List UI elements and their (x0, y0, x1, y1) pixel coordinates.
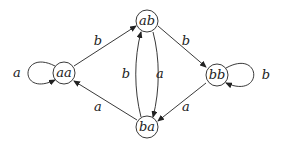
node-bb: bb (206, 64, 228, 86)
edge-label-aa-loop: a (13, 65, 21, 80)
edge-label-ba-aa: a (94, 99, 102, 114)
edge-label-ab-ba: a (156, 66, 164, 81)
node-ba-label: ba (139, 119, 155, 134)
edge-label-aa-ab: b (94, 33, 102, 48)
node-bb-label: bb (209, 67, 226, 82)
edge-aa-ab (74, 26, 136, 66)
edge-ba-aa (74, 81, 137, 120)
edge-label-ab-bb: b (182, 33, 190, 48)
state-diagram: aa ab ba bb a b a b a b a b (0, 0, 281, 147)
edge-label-ba-ab: b (122, 66, 130, 81)
node-aa: aa (53, 62, 75, 84)
node-ab: ab (136, 10, 158, 32)
edge-label-bb-ba: a (182, 99, 190, 114)
edge-bb-loop (226, 63, 254, 86)
node-aa-label: aa (56, 65, 72, 80)
node-ba: ba (136, 116, 158, 138)
edge-aa-loop (28, 62, 55, 84)
edge-label-bb-loop: b (262, 67, 270, 82)
node-ab-label: ab (139, 13, 155, 28)
edge-ba-ab (136, 32, 141, 117)
